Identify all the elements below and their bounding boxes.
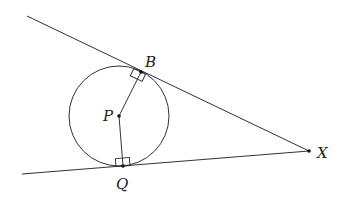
point-q	[121, 164, 125, 168]
geometry-figure: B P Q X	[0, 0, 347, 202]
tangent-line-xb	[27, 16, 309, 151]
point-x	[307, 149, 311, 153]
label-b: B	[144, 53, 156, 71]
label-x: X	[316, 144, 329, 162]
right-angle-marker-b	[130, 69, 145, 82]
point-b	[139, 70, 143, 74]
radius-pb	[119, 72, 141, 116]
tangent-line-xq	[22, 151, 309, 174]
point-p	[117, 114, 121, 118]
diagram-canvas: B P Q X	[0, 0, 347, 202]
label-p: P	[102, 107, 114, 125]
label-q: Q	[116, 175, 128, 193]
